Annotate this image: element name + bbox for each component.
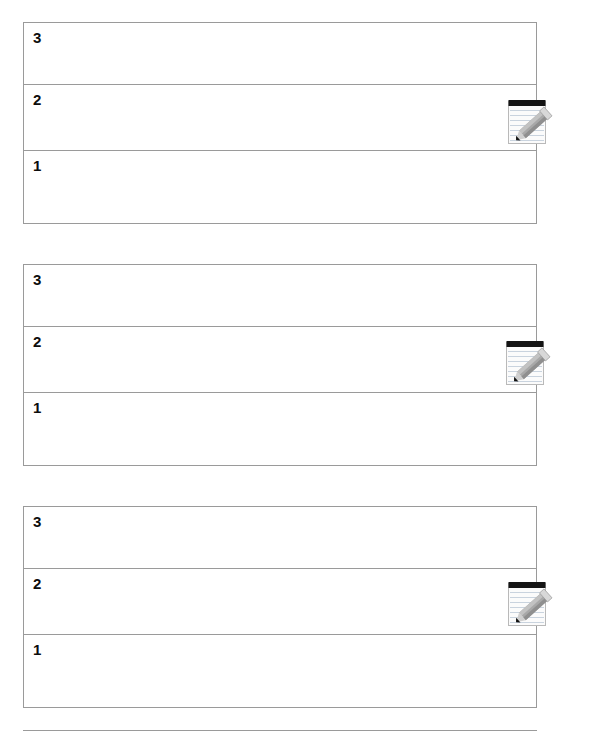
rank-label: 3 [33,271,41,288]
partial-table-top-border [23,730,537,731]
rank-label: 1 [33,641,41,658]
table-row[interactable]: 2 [24,569,536,635]
rank-label: 1 [33,157,41,174]
rank-label: 3 [33,29,41,46]
rank-label: 2 [33,575,41,592]
table-row[interactable]: 1 [24,393,536,465]
table-row[interactable]: 2 [24,327,536,393]
rank-label: 1 [33,399,41,416]
rank-table: 3 2 1 [23,264,537,466]
memo-notepad-pencil-icon[interactable] [504,337,560,389]
page-canvas: 3 2 1 3 2 1 3 2 1 [0,0,591,737]
rank-label: 2 [33,333,41,350]
table-row[interactable]: 3 [24,23,536,85]
table-row[interactable]: 3 [24,265,536,327]
table-row[interactable]: 3 [24,507,536,569]
rank-label: 3 [33,513,41,530]
table-row[interactable]: 1 [24,151,536,223]
table-row[interactable]: 2 [24,85,536,151]
table-row[interactable]: 1 [24,635,536,707]
rank-table: 3 2 1 [23,506,537,708]
rank-label: 2 [33,91,41,108]
memo-notepad-pencil-icon[interactable] [506,578,562,630]
memo-notepad-pencil-icon[interactable] [506,96,562,148]
rank-table: 3 2 1 [23,22,537,224]
